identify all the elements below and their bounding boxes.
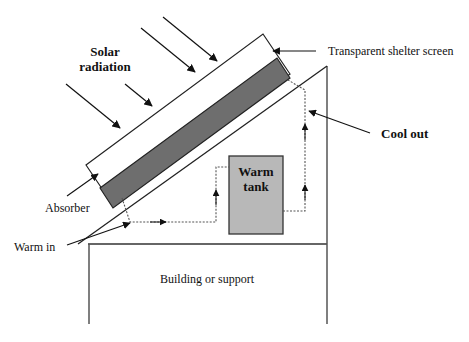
cool-out-pointer xyxy=(309,111,370,133)
tank-label-line1: Warm xyxy=(238,164,274,179)
absorber-label: Absorber xyxy=(45,201,90,215)
tank-label-line2: tank xyxy=(243,179,269,194)
cool-out-label: Cool out xyxy=(381,126,429,141)
solar-radiation-label-line1: Solar xyxy=(90,44,120,59)
solar-radiation-label-line2: radiation xyxy=(79,59,131,74)
absorber-pointer xyxy=(67,174,98,196)
solar-heater-diagram: Warm tank Solar radiation Transparent sh… xyxy=(0,0,469,342)
shelter-screen-label: Transparent shelter screen xyxy=(328,44,454,58)
building-label: Building or support xyxy=(160,272,255,286)
warm-in-label: Warm in xyxy=(14,240,55,254)
warm-in-pointer xyxy=(67,223,130,245)
